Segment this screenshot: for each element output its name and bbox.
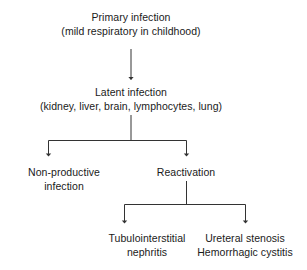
- node-reactivation-line1: Reactivation: [157, 166, 215, 180]
- node-latent-infection-line2: (kidney, liver, brain, lymphocytes, lung…: [40, 100, 222, 114]
- node-ureteral-stenosis-line1: Ureteral stenosis: [197, 232, 293, 246]
- node-tubulointerstitial-nephritis-line2: nephritis: [109, 246, 186, 260]
- node-primary-infection: Primary infection (mild respiratory in c…: [61, 11, 200, 38]
- node-hemorrhagic-cystitis-line2: Hemorrhagic cystitis: [197, 246, 293, 260]
- node-primary-infection-line2: (mild respiratory in childhood): [61, 25, 200, 39]
- node-latent-infection: Latent infection (kidney, liver, brain, …: [40, 86, 222, 113]
- node-reactivation: Reactivation: [157, 166, 215, 180]
- node-primary-infection-line1: Primary infection: [61, 11, 200, 25]
- node-non-productive-infection-line2: infection: [28, 180, 100, 194]
- node-latent-infection-line1: Latent infection: [40, 86, 222, 100]
- node-tubulointerstitial-nephritis: Tubulointerstitial nephritis: [109, 232, 186, 259]
- node-non-productive-infection: Non-productive infection: [28, 166, 100, 193]
- connector-layer: [0, 0, 307, 270]
- node-non-productive-infection-line1: Non-productive: [28, 166, 100, 180]
- node-ureteral-stenosis-hemorrhagic-cystitis: Ureteral stenosis Hemorrhagic cystitis: [197, 232, 293, 259]
- node-tubulointerstitial-nephritis-line1: Tubulointerstitial: [109, 232, 186, 246]
- flowchart-canvas: Primary infection (mild respiratory in c…: [0, 0, 307, 270]
